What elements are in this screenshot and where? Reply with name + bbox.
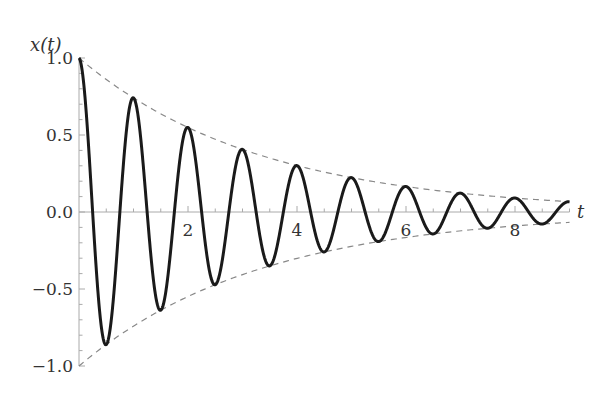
lower-envelope [79, 222, 570, 366]
x-of-t-curve [79, 58, 570, 345]
upper-envelope [79, 58, 570, 202]
y-tick-label: −1.0 [32, 356, 73, 376]
x-tick-label: 8 [510, 220, 521, 240]
damped-oscillation-chart: 1.00.50.0−0.5−1.02468 x(t) t [0, 0, 615, 399]
x-tick-label: 4 [292, 220, 303, 240]
y-tick-label: −0.5 [32, 279, 73, 299]
x-tick-label: 2 [183, 220, 194, 240]
y-tick-label: 0.5 [46, 125, 73, 145]
curve-layer [79, 58, 570, 345]
axes [79, 58, 570, 366]
y-axis-label: x(t) [30, 34, 61, 55]
x-axis-label: t [577, 201, 585, 222]
x-tick-label: 6 [401, 220, 412, 240]
y-tick-label: 0.0 [46, 202, 73, 222]
